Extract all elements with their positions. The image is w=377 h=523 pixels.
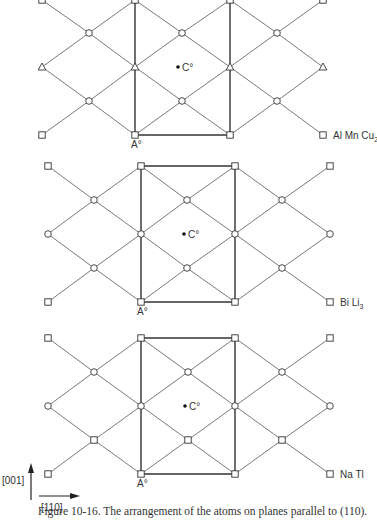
center-dot-icon — [182, 232, 186, 236]
square-atom-icon — [138, 299, 144, 305]
circle-atom-icon — [232, 231, 239, 238]
circle-atom-icon — [279, 265, 286, 272]
center-label: C° — [189, 401, 200, 412]
circle-atom-icon — [91, 197, 98, 204]
circle-atom-icon — [45, 231, 52, 238]
square-atom-icon — [39, 132, 45, 138]
compound-label: Na Tl — [340, 469, 364, 480]
compound-label: Bi Li3 — [340, 297, 363, 310]
panel-NaTl: C°A°Na Tl — [45, 335, 364, 489]
triangle-atom-icon — [226, 63, 234, 70]
square-atom-icon — [138, 335, 144, 341]
origin-label: A° — [131, 139, 142, 150]
origin-label: A° — [137, 306, 148, 317]
circle-atom-icon — [45, 403, 52, 410]
square-atom-icon — [279, 437, 285, 443]
vertical-arrowhead-icon — [28, 463, 34, 473]
panel-BiLi3: C°A°Bi Li3 — [45, 163, 364, 317]
square-atom-icon — [45, 335, 51, 341]
center-dot-icon — [176, 65, 180, 69]
square-atom-icon — [138, 471, 144, 477]
circle-atom-icon — [274, 30, 281, 37]
panels-group: C°A°Al Mn Cu2C°A°Bi Li3C°A°Na Tl — [38, 0, 377, 489]
square-atom-icon — [227, 0, 233, 3]
circle-atom-icon — [184, 197, 191, 204]
square-atom-icon — [327, 335, 333, 341]
circle-atom-icon — [279, 197, 286, 204]
figure-caption: Figure 10-16. The arrangement of the ato… — [38, 505, 377, 517]
circle-atom-icon — [327, 403, 334, 410]
compound-label: Al Mn Cu2 — [333, 130, 377, 143]
center-label: C° — [182, 62, 193, 73]
circle-atom-icon — [86, 98, 93, 105]
square-atom-icon — [320, 0, 326, 3]
square-atom-icon — [232, 299, 238, 305]
vertical-axis-label: [001] — [2, 475, 24, 486]
square-atom-icon — [185, 437, 191, 443]
square-atom-icon — [327, 163, 333, 169]
circle-atom-icon — [179, 30, 186, 37]
square-atom-icon — [132, 0, 138, 3]
square-atom-icon — [232, 471, 238, 477]
square-atom-icon — [327, 471, 333, 477]
circle-atom-icon — [279, 369, 286, 376]
circle-atom-icon — [91, 369, 98, 376]
center-label: C° — [188, 229, 199, 240]
circle-atom-icon — [179, 98, 186, 105]
square-atom-icon — [232, 335, 238, 341]
circle-atom-icon — [138, 403, 145, 410]
panel-AlMnCu2: C°A°Al Mn Cu2 — [38, 0, 377, 150]
square-atom-icon — [232, 163, 238, 169]
circle-atom-icon — [274, 98, 281, 105]
square-atom-icon — [138, 163, 144, 169]
unit-cell-outline — [141, 338, 235, 474]
crystal-structure-diagram: C°A°Al Mn Cu2C°A°Bi Li3C°A°Na Tl [001] [… — [0, 0, 377, 523]
triangle-atom-icon — [38, 63, 46, 70]
circle-atom-icon — [232, 403, 239, 410]
square-atom-icon — [45, 163, 51, 169]
circle-atom-icon — [327, 231, 334, 238]
square-atom-icon — [320, 132, 326, 138]
circle-atom-icon — [86, 30, 93, 37]
square-atom-icon — [91, 437, 97, 443]
horizontal-arrowhead-icon — [70, 493, 80, 499]
square-atom-icon — [227, 132, 233, 138]
circle-atom-icon — [91, 265, 98, 272]
square-atom-icon — [39, 0, 45, 3]
origin-label: A° — [137, 478, 148, 489]
triangle-atom-icon — [131, 63, 139, 70]
circle-atom-icon — [185, 369, 192, 376]
square-atom-icon — [132, 132, 138, 138]
circle-atom-icon — [184, 265, 191, 272]
square-atom-icon — [327, 299, 333, 305]
square-atom-icon — [45, 299, 51, 305]
center-dot-icon — [183, 404, 187, 408]
square-atom-icon — [45, 471, 51, 477]
triangle-atom-icon — [319, 63, 327, 70]
circle-atom-icon — [138, 231, 145, 238]
